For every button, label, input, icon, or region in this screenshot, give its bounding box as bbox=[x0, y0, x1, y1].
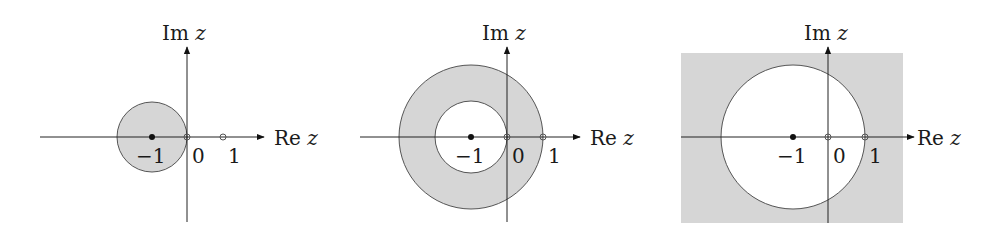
im-label: Im z bbox=[804, 21, 848, 45]
tick-one: 1 bbox=[869, 144, 882, 168]
im-label: Im z bbox=[482, 21, 526, 45]
tick-neg-one: −1 bbox=[136, 144, 165, 168]
tick-one: 1 bbox=[548, 144, 561, 168]
point-neg-one bbox=[149, 134, 155, 140]
panel-3: Im z Re z −1 0 1 bbox=[681, 21, 961, 223]
tick-zero: 0 bbox=[512, 144, 525, 168]
panel-2: Im z Re z −1 0 1 bbox=[360, 21, 634, 222]
tick-zero: 0 bbox=[192, 144, 205, 168]
tick-one: 1 bbox=[228, 144, 241, 168]
re-label: Re z bbox=[917, 126, 961, 150]
point-neg-one bbox=[468, 134, 474, 140]
point-neg-one bbox=[790, 134, 796, 140]
tick-neg-one: −1 bbox=[455, 144, 484, 168]
re-label: Re z bbox=[590, 126, 634, 150]
im-label: Im z bbox=[162, 21, 206, 45]
panel-1: Im z Re z −1 0 1 bbox=[40, 21, 318, 222]
figure: Im z Re z −1 0 1 Im z Re z −1 0 1 Im z R… bbox=[0, 0, 1004, 232]
tick-neg-one: −1 bbox=[777, 144, 806, 168]
tick-zero: 0 bbox=[833, 144, 846, 168]
re-label: Re z bbox=[274, 126, 318, 150]
